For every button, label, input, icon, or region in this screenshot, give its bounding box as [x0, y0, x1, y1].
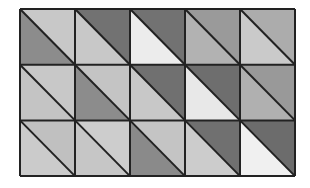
triangle-grid	[0, 0, 310, 188]
triangle-grid-diagram	[0, 0, 310, 188]
